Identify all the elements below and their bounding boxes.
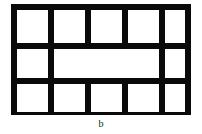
cell-r3c3 (91, 84, 122, 112)
grid-diagram-frame (11, 4, 191, 115)
cell-r1c2 (54, 10, 85, 43)
cell-r3c4 (128, 84, 159, 112)
figure-caption: b (0, 117, 202, 131)
cell-r1c3 (91, 10, 122, 43)
cell-r2c1 (17, 49, 48, 78)
cell-r2c5 (165, 49, 185, 78)
cell-r1c5 (165, 10, 185, 43)
figure-root: b (0, 0, 202, 134)
cell-r1c4 (128, 10, 159, 43)
cell-r3c1 (17, 84, 48, 112)
cell-r2-merged (54, 49, 159, 78)
cell-r1c1 (17, 10, 48, 43)
cell-r3c2 (54, 84, 85, 112)
cell-r3c5 (165, 84, 185, 112)
